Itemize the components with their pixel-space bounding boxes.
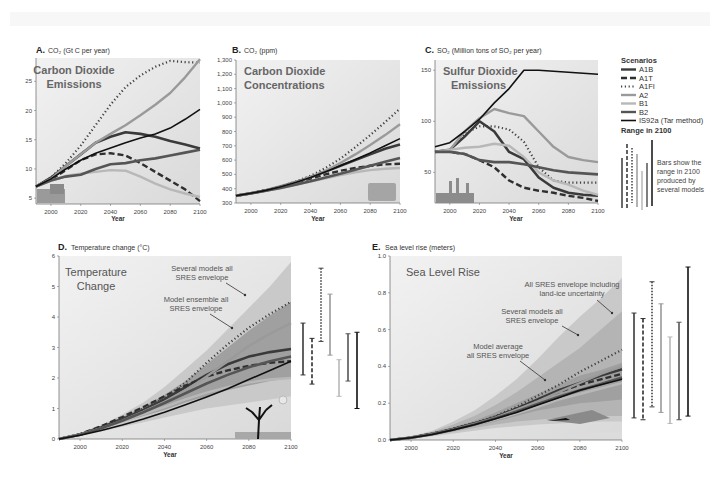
y-tick-label: 25 <box>25 78 32 84</box>
panel-d-title: Temperature change (°C) <box>71 244 150 252</box>
panel-a-inner-title-1: Carbon Dioxide <box>33 64 114 76</box>
y-tick-label: 400 <box>222 186 233 192</box>
figure-root: A. CO₂ (Gt C per year) 51015202520002020… <box>0 0 726 481</box>
panel-c-inner-title-1: Sulfur Dioxide <box>443 65 518 77</box>
y-tick-label: 1,100 <box>217 86 233 92</box>
x-tick-label: 2060 <box>532 208 546 214</box>
y-tick-label: 100 <box>421 118 432 124</box>
x-tick-label: 2000 <box>443 208 457 214</box>
panel-c-plot: 50100150200020202040206020802100 <box>421 60 605 214</box>
panel-e-annotation-1b: land-ice uncertainty <box>539 289 604 298</box>
panel-b: B. CO₂ (ppm) 3004005006007008009001,0001… <box>217 45 407 222</box>
panel-b-inner-title-2: Concentrations <box>244 79 325 91</box>
panel-a: A. CO₂ (Gt C per year) 51015202520002020… <box>25 45 207 222</box>
panel-e-annotation-2a: Several models all <box>501 307 563 316</box>
x-tick-label: 2060 <box>200 444 214 450</box>
panel-b-title: CO₂ (ppm) <box>244 47 277 55</box>
y-tick-label: 0.8 <box>378 290 387 296</box>
x-tick-label: 2020 <box>116 444 130 450</box>
panel-d-xlabel: Year <box>163 451 177 458</box>
panel-e-xlabel: Year <box>499 452 513 459</box>
panel-e-annotation-1a: All SRES envelope including <box>524 280 619 289</box>
x-tick-label: 2020 <box>473 208 487 214</box>
panel-e-inner-title: Sea Level Rise <box>406 266 480 278</box>
y-tick-label: 20 <box>25 108 32 114</box>
legend-range-note-2: range in 2100 <box>657 168 700 176</box>
panel-e-letter: E. <box>372 242 381 252</box>
y-tick-label: 1,300 <box>217 57 233 63</box>
y-tick-label: 300 <box>222 200 233 206</box>
panel-e-title: Sea level rise (meters) <box>385 244 455 252</box>
panel-d-annotation-1b: SRES envelope <box>176 273 229 282</box>
x-tick-label: 2100 <box>193 209 207 215</box>
panel-c-letter: C. <box>425 45 434 55</box>
x-tick-label: 2080 <box>562 208 576 214</box>
x-tick-label: 2080 <box>364 208 378 214</box>
legend-label-is92a: IS92a (Tar method) <box>639 116 704 125</box>
y-tick-label: 150 <box>421 67 432 73</box>
panel-d-letter: D. <box>58 242 67 252</box>
y-tick-label: 1,000 <box>217 100 233 106</box>
y-tick-label: 900 <box>222 114 233 120</box>
panel-b-letter: B. <box>232 45 241 55</box>
x-tick-label: 2000 <box>244 208 258 214</box>
panel-d-annotation-2a: Model ensemble all <box>164 295 229 304</box>
x-tick-label: 2060 <box>334 208 348 214</box>
panel-e-annotation-3a: Model average <box>473 342 523 351</box>
x-tick-label: 2100 <box>615 445 629 451</box>
y-tick-label: 700 <box>222 143 233 149</box>
panel-a-xlabel: Year <box>111 215 125 222</box>
panel-a-title: CO₂ (Gt C per year) <box>48 47 110 55</box>
panel-b-xlabel: Year <box>311 215 325 222</box>
truck-illustration-icon <box>368 183 396 201</box>
y-tick-label: 1.0 <box>378 253 387 259</box>
x-tick-label: 2100 <box>284 444 298 450</box>
y-tick-label: 500 <box>222 171 233 177</box>
legend-range-note-3: produced by <box>657 177 696 185</box>
x-tick-label: 2080 <box>242 444 256 450</box>
x-tick-label: 2080 <box>573 445 587 451</box>
x-tick-label: 2060 <box>531 445 545 451</box>
climate-scenarios-figure: A. CO₂ (Gt C per year) 51015202520002020… <box>0 0 726 481</box>
x-tick-label: 2100 <box>393 208 407 214</box>
x-tick-label: 2040 <box>502 208 516 214</box>
panel-d-annotation-1a: Several models all <box>171 264 233 273</box>
panel-d-annotation-2b: SRES envelope <box>170 304 223 313</box>
panel-a-letter: A. <box>36 45 45 55</box>
y-tick-label: 1,200 <box>217 71 233 77</box>
panel-c-title: SO₂ (Million tons of SO₂ per year) <box>437 47 542 55</box>
y-tick-label: 800 <box>222 129 233 135</box>
x-tick-label: 2080 <box>164 209 178 215</box>
y-tick-label: 10 <box>25 166 32 172</box>
x-tick-label: 2100 <box>591 208 605 214</box>
panel-d-inner-title-1: Temperature <box>65 266 127 278</box>
x-tick-label: 2060 <box>134 209 148 215</box>
y-tick-label: 0.4 <box>378 363 387 369</box>
y-tick-label: 0.2 <box>378 400 387 406</box>
legend-range-note-4: several models <box>657 186 705 193</box>
x-tick-label: 2020 <box>74 209 88 215</box>
legend-title: Scenarios <box>621 56 657 65</box>
y-tick-label: 0.0 <box>378 437 387 443</box>
x-tick-label: 2040 <box>489 445 503 451</box>
panel-c: C. SO₂ (Million tons of SO₂ per year) 50… <box>421 45 605 222</box>
x-tick-label: 2000 <box>44 209 58 215</box>
panel-e-annotation-2b: SRES envelope <box>506 316 559 325</box>
panel-b-inner-title-1: Carbon Dioxide <box>244 65 325 77</box>
legend-range-note-1: Bars show the <box>657 159 701 166</box>
panel-a-inner-title-2: Emissions <box>46 78 101 90</box>
panel-e-annotation-3b: all SRES envelope <box>467 351 530 360</box>
x-tick-label: 2040 <box>304 208 318 214</box>
panel-d-inner-title-2: Change <box>77 280 116 292</box>
y-tick-label: 50 <box>424 169 431 175</box>
x-tick-label: 2040 <box>158 444 172 450</box>
x-tick-label: 2000 <box>404 445 418 451</box>
x-tick-label: 2020 <box>274 208 288 214</box>
x-tick-label: 2020 <box>447 445 461 451</box>
panel-c-inner-title-2: Emissions <box>451 79 506 91</box>
panel-c-xlabel: Year <box>509 215 523 222</box>
y-tick-label: 600 <box>222 157 233 163</box>
legend-range-title: Range in 2100 <box>621 126 671 135</box>
y-tick-label: 0.6 <box>378 327 387 333</box>
x-tick-label: 2000 <box>73 444 87 450</box>
